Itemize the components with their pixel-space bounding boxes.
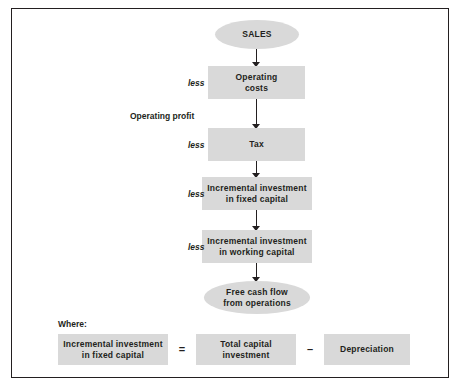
node-free-cash-flow: Free cash flow from operations — [204, 281, 310, 314]
node-incremental-working-capital-line2: in working capital — [207, 247, 306, 258]
label-where: Where: — [58, 319, 87, 329]
node-where-term1-line1: Incremental investment — [63, 339, 162, 350]
label-less-tax: less — [188, 140, 205, 150]
node-where-term1-line2: in fixed capital — [63, 350, 162, 361]
node-incremental-fixed-capital-line1: Incremental investment — [207, 183, 306, 194]
symbol-equals: = — [176, 343, 188, 355]
node-where-term3-label: Depreciation — [340, 344, 394, 355]
node-operating-costs-line1: Operating — [236, 72, 278, 83]
label-operating-profit: Operating profit — [130, 111, 194, 121]
node-sales: SALES — [215, 20, 299, 49]
node-where-depreciation: Depreciation — [324, 334, 410, 365]
node-free-cash-flow-line1: Free cash flow — [223, 287, 291, 298]
node-where-incremental-fixed-capital: Incremental investment in fixed capital — [58, 334, 168, 365]
connector-operating-costs-to-tax — [256, 99, 257, 126]
node-where-term2-line1: Total capital — [220, 339, 272, 350]
node-tax: Tax — [208, 128, 305, 161]
node-operating-costs: Operating costs — [208, 66, 305, 99]
label-less-fixed-capital: less — [188, 189, 205, 199]
node-free-cash-flow-line2: from operations — [223, 298, 291, 309]
symbol-minus: – — [304, 343, 316, 355]
node-operating-costs-line2: costs — [236, 83, 278, 94]
node-sales-label: SALES — [242, 29, 271, 40]
node-where-term2-line2: investment — [220, 350, 272, 361]
node-incremental-working-capital-line1: Incremental investment — [207, 236, 306, 247]
node-where-total-capital-investment: Total capital investment — [196, 334, 296, 365]
label-less-working-capital: less — [188, 242, 205, 252]
node-incremental-fixed-capital: Incremental investment in fixed capital — [202, 177, 312, 210]
label-less-operating-costs: less — [188, 78, 205, 88]
node-incremental-working-capital: Incremental investment in working capita… — [202, 230, 312, 263]
node-incremental-fixed-capital-line2: in fixed capital — [207, 194, 306, 205]
diagram-canvas: SALES Operating costs Tax Incremental in… — [0, 0, 462, 388]
node-tax-label: Tax — [249, 139, 264, 150]
